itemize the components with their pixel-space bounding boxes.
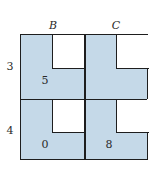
- column-label-c: C: [112, 20, 120, 32]
- cell-value-c4: 8: [106, 139, 113, 151]
- cell-value-b3: 5: [42, 75, 49, 87]
- vertical-divider: [84, 35, 86, 159]
- cell-b3: 5: [21, 35, 85, 99]
- cell-c3: [85, 35, 149, 99]
- horizontal-divider: [21, 99, 147, 101]
- row-label-4: 4: [7, 125, 14, 137]
- white-square-c3: [116, 35, 149, 69]
- white-square-c4: [116, 99, 149, 133]
- white-square-b4: [52, 99, 85, 133]
- cell-value-b4: 0: [42, 139, 49, 151]
- column-label-b: B: [49, 20, 57, 32]
- white-square-b3: [52, 35, 85, 69]
- grid-diagram: 5 0 8: [20, 34, 148, 160]
- cell-c4: 8: [85, 99, 149, 161]
- cell-b4: 0: [21, 99, 85, 161]
- row-label-3: 3: [7, 61, 14, 73]
